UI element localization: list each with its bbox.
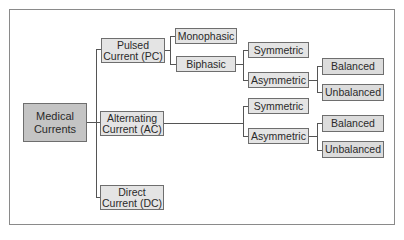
node-label: Current (DC) [102, 198, 162, 209]
connector [309, 80, 317, 81]
connector [317, 66, 318, 92]
node-alternating-current: Alternating Current (AC) [100, 111, 164, 136]
node-label: Current (AC) [102, 124, 162, 135]
node-label: Current (PC) [103, 51, 163, 62]
node-ac-symmetric: Symmetric [248, 98, 309, 114]
node-label: Alternating [107, 113, 157, 124]
node-label: Pulsed [117, 40, 149, 51]
node-label: Currents [34, 123, 76, 136]
node-label: Direct [118, 187, 145, 198]
node-direct-current: Direct Current (DC) [100, 185, 164, 210]
node-pulsed-current: Pulsed Current (PC) [101, 38, 165, 63]
connector [170, 36, 171, 64]
node-label: Monophasic [178, 31, 235, 42]
node-label: Unbalanced [325, 87, 381, 98]
node-label: Asymmetric [251, 75, 306, 86]
node-label: Biphasic [186, 59, 226, 70]
node-pc-asymmetric: Asymmetric [248, 72, 309, 88]
connector [309, 136, 317, 137]
connector [243, 50, 244, 80]
node-pc-unbalanced: Unbalanced [322, 84, 384, 101]
node-label: Asymmetric [251, 131, 306, 142]
node-ac-balanced: Balanced [322, 115, 384, 132]
connector [96, 49, 97, 198]
node-label: Unbalanced [325, 144, 381, 155]
connector [317, 123, 318, 150]
node-label: Balanced [331, 61, 375, 72]
node-label: Symmetric [254, 45, 304, 56]
node-medical-currents: Medical Currents [23, 103, 87, 142]
node-pc-symmetric: Symmetric [248, 42, 309, 58]
node-pc-balanced: Balanced [322, 58, 384, 75]
node-biphasic: Biphasic [176, 56, 236, 72]
node-monophasic: Monophasic [175, 28, 237, 44]
node-label: Symmetric [254, 101, 304, 112]
node-label: Medical [36, 110, 74, 123]
connector [243, 106, 244, 137]
node-ac-unbalanced: Unbalanced [322, 141, 384, 158]
connector [164, 123, 243, 124]
connector [236, 64, 243, 65]
node-label: Balanced [331, 118, 375, 129]
node-ac-asymmetric: Asymmetric [248, 128, 309, 144]
connector [87, 122, 96, 123]
